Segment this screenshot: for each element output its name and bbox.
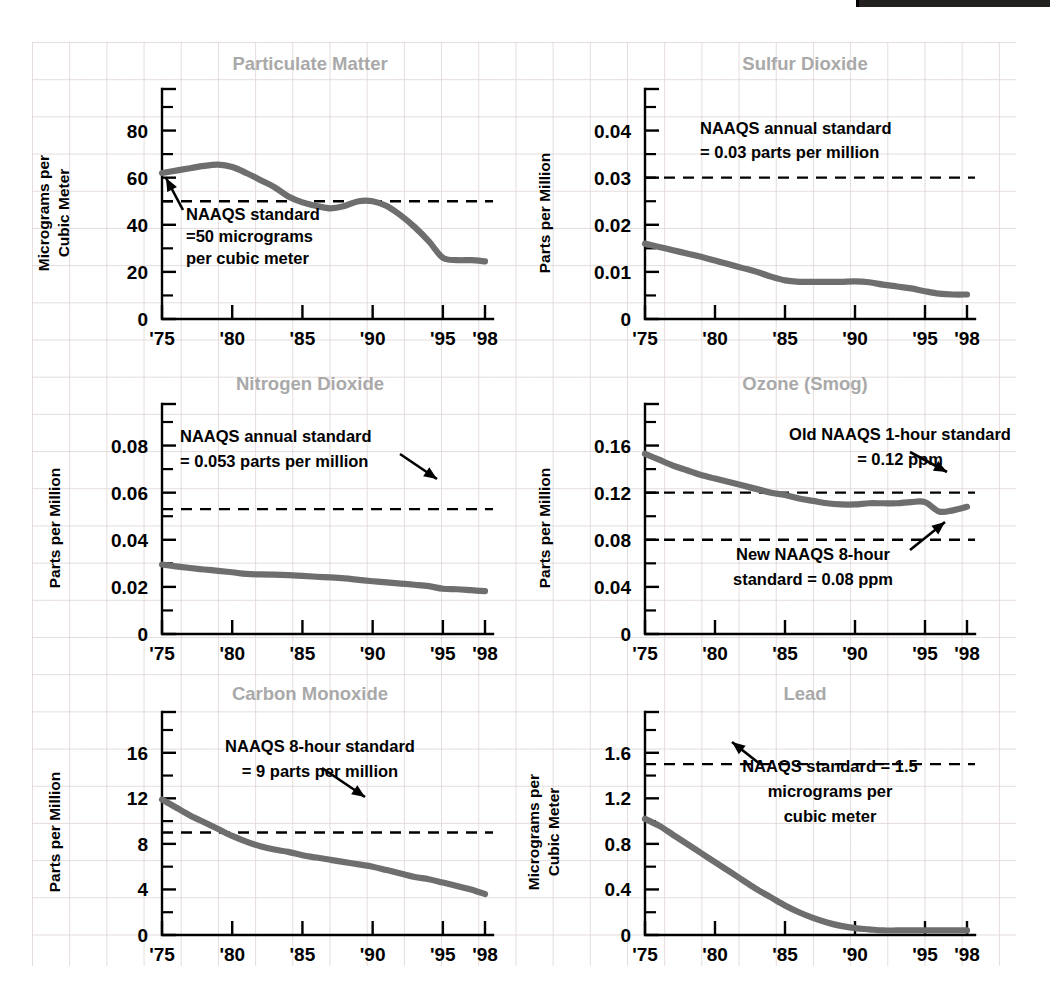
y-tick-label: 40 — [127, 215, 148, 236]
svg-text:Parts per Million: Parts per Million — [46, 772, 63, 893]
chart-title: Particulate Matter — [232, 53, 387, 74]
x-tick-label: '90 — [360, 328, 386, 349]
y-tick-label: 0.04 — [594, 121, 631, 142]
y-tick-label: 0.08 — [111, 436, 148, 457]
svg-text:Parts per Million: Parts per Million — [536, 153, 553, 274]
y-tick-label: 0.02 — [111, 577, 148, 598]
x-tick-label: '90 — [360, 944, 386, 965]
x-tick-label: '98 — [472, 944, 498, 965]
y-tick-label: 20 — [127, 262, 148, 283]
x-tick-label: '90 — [842, 328, 868, 349]
x-tick-label: '80 — [702, 643, 728, 664]
y-tick-label: 0.04 — [111, 530, 148, 551]
y-axis-ticks: 00.40.81.21.6 — [605, 730, 659, 946]
x-tick-label: '80 — [702, 328, 728, 349]
y-tick-label: 0.03 — [594, 168, 631, 189]
x-tick-label: '90 — [842, 944, 868, 965]
y-axis-ticks: 020406080 — [127, 107, 176, 330]
chart-title: Lead — [783, 683, 826, 704]
svg-text:NAAQS standard = 1.5: NAAQS standard = 1.5 — [742, 757, 918, 775]
svg-text:cubic meter: cubic meter — [784, 807, 877, 825]
y-tick-label: 0.16 — [594, 436, 631, 457]
data-series-line — [645, 819, 967, 931]
svg-text:NAAQS annual standard: NAAQS annual standard — [180, 427, 372, 445]
annotation-text: NAAQS standard=50 microgramsper cubic me… — [186, 205, 320, 267]
svg-text:Parts per Million: Parts per Million — [46, 468, 63, 589]
annotation-text: New NAAQS 8-hourstandard = 0.08 ppm — [733, 545, 893, 588]
y-axis-title: Parts per Million — [536, 468, 553, 589]
y-tick-label: 12 — [127, 788, 148, 809]
svg-text:= 0.03 parts per million: = 0.03 parts per million — [700, 143, 879, 161]
x-tick-label: '75 — [632, 643, 658, 664]
y-tick-label: 0.12 — [594, 483, 631, 504]
x-tick-label: '85 — [290, 944, 316, 965]
x-tick-label: '80 — [219, 944, 245, 965]
x-tick-label: '85 — [290, 328, 316, 349]
svg-text:NAAQS standard: NAAQS standard — [186, 205, 320, 223]
chart-panel-sulfur-dioxide: Sulfur DioxideParts per Million00.010.02… — [500, 42, 1047, 352]
svg-text:Cubic Meter: Cubic Meter — [545, 788, 562, 877]
y-tick-label: 0.01 — [594, 262, 631, 283]
y-tick-label: 0.06 — [111, 483, 148, 504]
x-tick-label: '98 — [954, 328, 980, 349]
svg-text:Cubic Meter: Cubic Meter — [55, 169, 72, 258]
x-axis-ticks: '75'80'85'90'95'98 — [149, 305, 498, 349]
x-tick-label: '98 — [472, 643, 498, 664]
y-tick-label: 0 — [137, 624, 148, 645]
svg-text:standard = 0.08 ppm: standard = 0.08 ppm — [733, 570, 893, 588]
x-axis-ticks: '75'80'85'90'95'98 — [632, 620, 980, 664]
x-tick-label: '95 — [430, 643, 456, 664]
x-tick-label: '98 — [954, 944, 980, 965]
data-series-line — [162, 565, 485, 592]
y-axis-title: Parts per Million — [46, 772, 63, 893]
y-tick-label: 60 — [127, 168, 148, 189]
x-tick-label: '95 — [912, 643, 938, 664]
svg-text:Parts per Million: Parts per Million — [536, 468, 553, 589]
annotation-arrow — [166, 178, 183, 210]
x-tick-label: '80 — [219, 643, 245, 664]
annotation-text: NAAQS annual standard= 0.03 parts per mi… — [700, 119, 892, 161]
chart-title: Ozone (Smog) — [742, 373, 867, 394]
x-tick-label: '80 — [219, 328, 245, 349]
x-tick-label: '75 — [149, 328, 175, 349]
y-tick-label: 0.4 — [605, 879, 632, 900]
x-tick-label: '90 — [842, 643, 868, 664]
y-tick-label: 0 — [620, 309, 631, 330]
y-tick-label: 1.6 — [605, 743, 631, 764]
svg-text:NAAQS 8-hour standard: NAAQS 8-hour standard — [225, 737, 415, 755]
x-tick-label: '90 — [360, 643, 386, 664]
x-tick-label: '80 — [702, 944, 728, 965]
x-tick-label: '95 — [430, 328, 456, 349]
y-axis-title: Micrograms perCubic Meter — [525, 774, 562, 890]
y-tick-label: 0 — [137, 309, 148, 330]
x-tick-label: '75 — [149, 643, 175, 664]
chart-title: Nitrogen Dioxide — [236, 373, 384, 394]
annotation-text: NAAQS 8-hour standard= 9 parts per milli… — [225, 737, 415, 780]
y-tick-label: 80 — [127, 121, 148, 142]
y-tick-label: 0 — [620, 925, 631, 946]
y-tick-label: 8 — [137, 834, 148, 855]
y-tick-label: 0.8 — [605, 834, 631, 855]
y-axis-ticks: 0481216 — [127, 730, 176, 946]
x-tick-label: '85 — [772, 944, 798, 965]
y-tick-label: 16 — [127, 743, 148, 764]
chart-panel-carbon-monoxide: Carbon MonoxideParts per Million0481216'… — [0, 672, 500, 972]
svg-text:NAAQS annual standard: NAAQS annual standard — [700, 119, 892, 137]
x-axis-ticks: '75'80'85'90'95'98 — [149, 921, 498, 965]
axis-lines — [162, 89, 493, 319]
x-tick-label: '85 — [290, 643, 316, 664]
x-tick-label: '95 — [912, 944, 938, 965]
x-tick-label: '85 — [772, 328, 798, 349]
y-tick-label: 0.02 — [594, 215, 631, 236]
y-axis-title: Micrograms perCubic Meter — [35, 155, 72, 271]
x-axis-ticks: '75'80'85'90'95'98 — [149, 620, 498, 664]
x-tick-label: '75 — [632, 944, 658, 965]
chart-title: Carbon Monoxide — [232, 683, 388, 704]
chart-panel-particulate-matter: Particulate MatterMicrograms perCubic Me… — [0, 42, 500, 352]
data-series-line — [162, 799, 485, 894]
x-tick-label: '95 — [912, 328, 938, 349]
x-tick-label: '85 — [772, 643, 798, 664]
svg-text:= 9 parts per million: = 9 parts per million — [242, 762, 398, 780]
annotation-text: Old NAAQS 1-hour standard= 0.12 ppm — [789, 425, 1011, 468]
